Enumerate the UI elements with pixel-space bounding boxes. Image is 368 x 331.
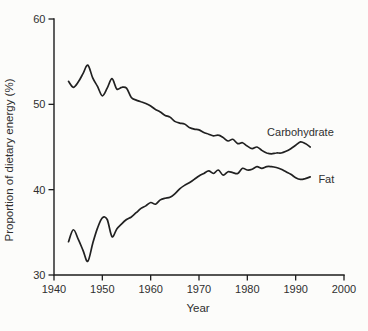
dietary-energy-chart: 605040301940195019601970198019902000 Pro… [0, 0, 368, 331]
carbohydrate-line [69, 65, 311, 154]
y-axis-title: Proportion of dietary energy (%) [3, 78, 15, 241]
fat-line [69, 166, 311, 261]
y-tick-label: 50 [33, 98, 45, 110]
series-lines [69, 65, 311, 261]
x-tick-label: 1960 [138, 283, 162, 295]
y-tick-label: 60 [33, 13, 45, 25]
x-tick-label: 1980 [235, 283, 259, 295]
x-tick-label: 1940 [42, 283, 66, 295]
fat-series-label: Fat [318, 173, 334, 185]
carbohydrate-series-label: Carbohydrate [267, 126, 334, 138]
axis-ticks: 605040301940195019601970198019902000 [33, 13, 356, 295]
dietary-energy-figure: 605040301940195019601970198019902000 Pro… [0, 0, 368, 331]
y-tick-label: 30 [33, 269, 45, 281]
x-axis-title: Year [186, 302, 209, 314]
x-tick-label: 1990 [283, 283, 307, 295]
axis-frame [54, 19, 344, 275]
x-tick-label: 2000 [332, 283, 356, 295]
x-tick-label: 1970 [187, 283, 211, 295]
x-tick-label: 1950 [90, 283, 114, 295]
y-tick-label: 40 [33, 184, 45, 196]
axes [54, 19, 344, 275]
